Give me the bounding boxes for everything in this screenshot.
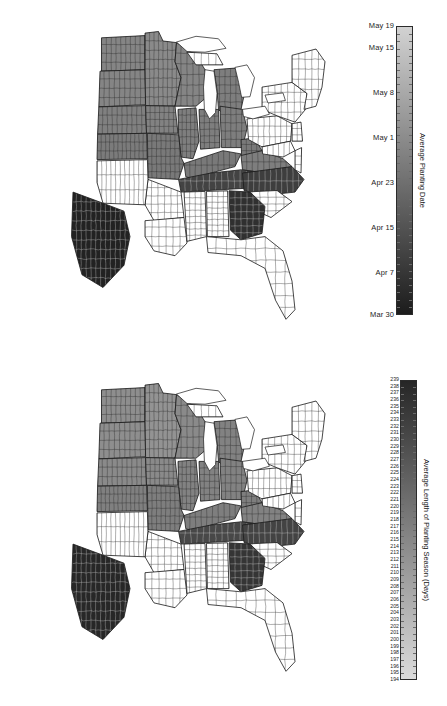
colorbar-tick <box>401 627 404 628</box>
choropleth-map-top <box>0 0 360 345</box>
state-fill <box>295 148 302 173</box>
colorbar-tick-label: May 15 <box>369 44 394 52</box>
colorbar-tick <box>401 426 404 427</box>
colorbar-tick-label: 198 <box>390 651 399 656</box>
colorbar-tick <box>409 242 412 243</box>
colorbar-tick-label: 210 <box>390 571 399 576</box>
colorbar-tick <box>413 588 416 589</box>
colorbar-tick <box>413 634 416 635</box>
colorbar-tick <box>413 511 416 512</box>
colorbar-tick-label: 237 <box>390 391 399 396</box>
colorbar-tick <box>397 56 400 57</box>
colorbar-tick <box>413 543 416 544</box>
colorbar-tick <box>397 307 400 308</box>
colorbar-tick <box>409 285 412 286</box>
state-region <box>97 159 149 205</box>
state-region <box>145 457 178 485</box>
colorbar-tick-label: 235 <box>390 404 399 409</box>
colorbar-tick <box>397 99 400 100</box>
colorbar-tick-label: 201 <box>390 631 399 636</box>
colorbar-tick <box>397 135 400 136</box>
colorbar-tick <box>401 524 404 525</box>
colorbar-tick <box>397 249 400 250</box>
colorbar-tick-label: 238 <box>390 384 399 389</box>
colorbar-tick <box>413 647 416 648</box>
colorbar-tick <box>413 459 416 460</box>
colorbar-tick <box>401 582 404 583</box>
colorbar-tick <box>401 595 404 596</box>
colorbar-tick <box>401 575 404 576</box>
panel-average-length-of-planting-season: 2392382372362352342332322312302292282272… <box>0 352 447 706</box>
colorbar-tick <box>413 426 416 427</box>
colorbar-tick <box>409 292 412 293</box>
colorbar-tick <box>409 77 412 78</box>
state-region <box>145 383 181 459</box>
colorbar-tick <box>413 387 416 388</box>
state-region <box>184 191 207 241</box>
colorbar-tick <box>401 569 404 570</box>
colorbar-tick <box>401 504 404 505</box>
colorbar-tick <box>409 142 412 143</box>
colorbar-tick <box>397 271 400 272</box>
colorbar-tick <box>413 666 416 667</box>
colorbar-tick <box>409 113 412 114</box>
colorbar-tick <box>409 34 412 35</box>
state-region <box>292 474 303 493</box>
colorbar-tick <box>413 504 416 505</box>
colorbar-tick <box>397 163 400 164</box>
colorbar-tick <box>397 214 400 215</box>
colorbar-labels-bottom: 2392382372362352342332322312302292282272… <box>374 380 399 680</box>
colorbar-tick-label: 226 <box>390 464 399 469</box>
colorbar-tick <box>397 242 400 243</box>
colorbar-tick <box>413 582 416 583</box>
colorbar-tick <box>409 257 412 258</box>
colorbar-tick <box>401 647 404 648</box>
state-region <box>206 236 295 320</box>
colorbar-tick <box>413 595 416 596</box>
colorbar-tick <box>401 653 404 654</box>
colorbar-tick-label: 205 <box>390 604 399 609</box>
colorbar-tick-label: 234 <box>390 411 399 416</box>
colorbar-tick <box>413 439 416 440</box>
colorbar-tick <box>401 634 404 635</box>
colorbar-tick <box>413 485 416 486</box>
colorbar-tick-label: 233 <box>390 417 399 422</box>
colorbar-tick <box>401 608 404 609</box>
state-region <box>98 105 147 134</box>
colorbar-ticks-bottom <box>401 381 416 679</box>
colorbar-tick <box>413 562 416 563</box>
colorbar-tick <box>409 163 412 164</box>
colorbar-tick-label: May 8 <box>373 89 394 97</box>
colorbar-tick <box>401 498 404 499</box>
colorbar-tick <box>397 235 400 236</box>
map-average-length-of-planting-season <box>0 352 360 706</box>
state-region <box>206 543 229 589</box>
colorbar-tick <box>397 127 400 128</box>
colorbar-tick-label: 213 <box>390 551 399 556</box>
colorbar-tick <box>397 171 400 172</box>
colorbar-tick <box>409 178 412 179</box>
state-fill <box>207 589 296 672</box>
colorbar-tick <box>401 491 404 492</box>
colorbar-tick-label: 215 <box>390 537 399 542</box>
colorbar-tick <box>413 556 416 557</box>
map-average-planting-date <box>0 0 360 345</box>
state-region <box>97 457 147 486</box>
colorbar-tick <box>413 433 416 434</box>
colorbar-tick <box>397 149 400 150</box>
colorbar-tick <box>401 485 404 486</box>
colorbar-tick <box>413 394 416 395</box>
colorbar-tick-label: 195 <box>390 671 399 676</box>
colorbar-tick <box>409 235 412 236</box>
colorbar-tick <box>413 653 416 654</box>
colorbar-tick <box>401 588 404 589</box>
colorbar-tick <box>397 228 400 229</box>
colorbar-tick <box>397 199 400 200</box>
state-region <box>206 191 229 237</box>
colorbar-tick <box>413 517 416 518</box>
colorbar-tick <box>397 285 400 286</box>
colorbar-tick-label: 202 <box>390 624 399 629</box>
colorbar-tick <box>397 221 400 222</box>
colorbar-tick <box>409 264 412 265</box>
colorbar-tick-label: 207 <box>390 591 399 596</box>
